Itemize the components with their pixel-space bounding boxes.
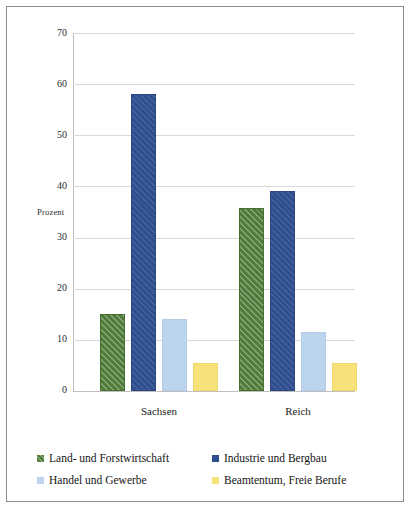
y-tick-70: 70 [27,28,67,38]
legend-row-1: Land- und Forstwirtschaft Industrie und … [37,452,387,464]
x-category-label-reich: Reich [285,405,311,417]
gridline-40 [73,186,355,187]
y-axis-title: Prozent [37,207,64,217]
y-tick-20: 20 [27,283,67,293]
bar-sachsen-beamtentum-freie-berufe[interactable] [193,363,218,391]
bar-reich-industrie-und-bergbau[interactable] [270,191,295,391]
y-tick-10: 10 [27,334,67,344]
bar-sachsen-industrie-und-bergbau[interactable] [131,94,156,391]
gridline-70 [73,33,355,34]
gridline-0 [73,391,355,392]
yellow-swatch-icon [212,477,219,484]
bar-reich-beamtentum-freie-berufe[interactable] [332,363,357,391]
bar-reich-handel-und-gewerbe[interactable] [301,332,326,391]
bar-sachsen-handel-und-gewerbe[interactable] [162,319,187,391]
y-tick-50: 50 [27,130,67,140]
gridline-50 [73,135,355,136]
legend-label-land-und-forstwirtschaft: Land- und Forstwirtschaft [49,452,169,464]
bar-sachsen-land-und-forstwirtschaft[interactable] [100,314,125,391]
gridline-60 [73,84,355,85]
gridline-20 [73,289,355,290]
x-category-label-sachsen: Sachsen [141,405,177,417]
legend-label-beamtentum-freie-berufe: Beamtentum, Freie Berufe [224,474,346,486]
y-tick-40: 40 [27,181,67,191]
bar-reich-land-und-forstwirtschaft[interactable] [239,208,264,391]
y-tick-0: 0 [27,385,67,395]
legend-row-2: Handel und Gewerbe Beamtentum, Freie Ber… [37,474,387,486]
green-swatch-icon [37,455,44,462]
y-tick-60: 60 [27,79,67,89]
plot-area [73,33,355,391]
legend-item-handel-und-gewerbe[interactable]: Handel und Gewerbe [37,474,212,486]
gridline-30 [73,238,355,239]
chart-figure-frame: 70 60 50 40 30 20 10 0 Prozent Sachsen R… [6,6,404,502]
legend-label-industrie-und-bergbau: Industrie und Bergbau [224,452,327,464]
chart-legend: Land- und Forstwirtschaft Industrie und … [37,452,387,496]
y-tick-30: 30 [27,232,67,242]
legend-item-land-und-forstwirtschaft[interactable]: Land- und Forstwirtschaft [37,452,212,464]
legend-item-beamtentum-freie-berufe[interactable]: Beamtentum, Freie Berufe [212,474,387,486]
legend-label-handel-und-gewerbe: Handel und Gewerbe [49,474,147,486]
darkblue-swatch-icon [212,455,219,462]
legend-item-industrie-und-bergbau[interactable]: Industrie und Bergbau [212,452,387,464]
lightblue-swatch-icon [37,477,44,484]
